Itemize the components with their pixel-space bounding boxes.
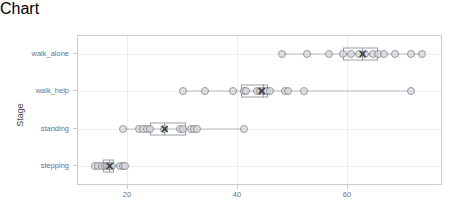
y-tickmark-3 <box>73 165 77 166</box>
data-point <box>179 125 187 133</box>
y-axis-title: Stage <box>15 75 25 155</box>
data-point <box>418 50 426 58</box>
x-tick-label-40: 40 <box>233 190 241 199</box>
data-point <box>179 87 187 95</box>
y-tickmark-0 <box>73 53 77 54</box>
data-point <box>278 50 286 58</box>
data-point <box>300 87 308 95</box>
y-tick-label-stepping: stepping <box>0 161 69 170</box>
x-tickmark-40 <box>237 185 238 189</box>
data-point <box>325 50 333 58</box>
plot-area: ✕✕✕✕ <box>77 35 442 185</box>
x-tickmark-20 <box>127 185 128 189</box>
mean-marker-standing: ✕ <box>159 124 169 134</box>
data-point <box>347 50 355 58</box>
gridline-y-stepping <box>78 166 441 167</box>
data-point <box>391 50 399 58</box>
data-point <box>284 87 292 95</box>
data-point <box>303 50 311 58</box>
y-tick-label-walk-help: walk_help <box>0 86 69 95</box>
data-point <box>407 87 415 95</box>
x-tick-label-60: 60 <box>343 190 351 199</box>
data-point <box>240 125 248 133</box>
data-point <box>121 162 129 170</box>
data-point <box>193 125 201 133</box>
mean-marker-stepping: ✕ <box>104 161 114 171</box>
data-point <box>407 50 415 58</box>
mean-marker-walk_alone: ✕ <box>358 49 368 59</box>
data-point <box>119 125 127 133</box>
data-point <box>201 87 209 95</box>
y-tickmark-2 <box>73 128 77 129</box>
chart-container: ✕✕✕✕ walk_alone walk_help standing stepp… <box>0 18 461 199</box>
data-point <box>242 87 250 95</box>
data-point <box>229 87 237 95</box>
data-point <box>146 125 154 133</box>
gridline-x-40 <box>237 36 238 184</box>
data-point <box>339 50 347 58</box>
range-line-walk_help <box>183 91 411 92</box>
data-point <box>380 50 388 58</box>
x-tickmark-60 <box>347 185 348 189</box>
y-tick-label-standing: standing <box>0 124 69 133</box>
x-tick-label-20: 20 <box>123 190 131 199</box>
y-tick-label-walk-alone: walk_alone <box>0 49 69 58</box>
mean-marker-walk_help: ✕ <box>257 86 267 96</box>
y-tickmark-1 <box>73 90 77 91</box>
data-point <box>266 87 274 95</box>
